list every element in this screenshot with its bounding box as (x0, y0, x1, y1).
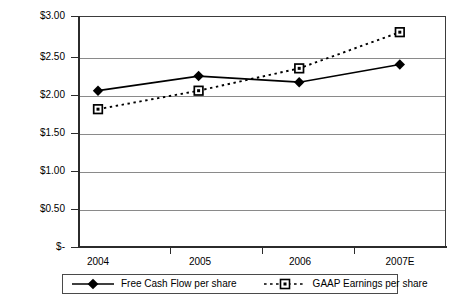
x-axis-label-2006: 2006 (289, 256, 311, 267)
legend-label-free-cash-flow: Free Cash Flow per share (121, 279, 237, 289)
legend-item-free-cash-flow: Free Cash Flow per share (71, 275, 237, 293)
x-axis-label-2005: 2005 (189, 256, 211, 267)
chart-container: $3.00 $2.50 $2.00 $1.50 $1.00 $0.50 $- 2… (0, 0, 459, 298)
x-tick-3 (354, 248, 355, 254)
legend: Free Cash Flow per share GAAP Earnings p… (62, 274, 398, 294)
y-tick-1-00 (71, 171, 79, 172)
y-tick-0-50 (71, 209, 79, 210)
y-tick-1-50 (71, 133, 79, 134)
x-tick-2 (262, 248, 263, 254)
y-axis-label-0: $- (56, 242, 65, 252)
x-tick-1 (170, 248, 171, 254)
y-axis-line (78, 16, 80, 248)
x-axis-label-2004: 2004 (87, 256, 109, 267)
y-tick-2-50 (71, 57, 79, 58)
gridline-0-50 (79, 210, 445, 211)
gridline-1-50 (79, 134, 445, 135)
y-axis-label-1-00: $1.00 (40, 166, 65, 176)
y-axis-label-2-00: $2.00 (40, 90, 65, 100)
gridline-2-50 (79, 58, 445, 59)
y-tick-0 (71, 247, 79, 248)
x-axis-label-2007E: 2007E (386, 256, 415, 267)
legend-item-gaap-earnings: GAAP Earnings per share (263, 275, 428, 293)
y-axis-label-3-00: $3.00 (40, 11, 65, 21)
legend-marker-square-icon (263, 278, 307, 290)
plot-area (78, 16, 446, 247)
legend-marker-diamond-icon (71, 278, 115, 290)
y-tick-2-00 (71, 95, 79, 96)
y-axis-label-1-50: $1.50 (40, 128, 65, 138)
legend-label-gaap-earnings: GAAP Earnings per share (313, 279, 428, 289)
y-axis-label-2-50: $2.50 (40, 52, 65, 62)
y-axis-label-0-50: $0.50 (40, 204, 65, 214)
gridline-1-00 (79, 172, 445, 173)
gridline-2-00 (79, 96, 445, 97)
y-tick-3-00 (71, 16, 79, 17)
